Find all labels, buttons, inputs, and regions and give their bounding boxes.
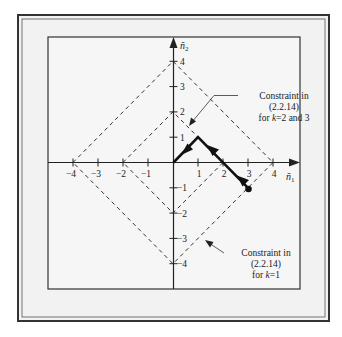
x-axis-subscript: 1: [291, 176, 295, 184]
y-axis-subscript: 2: [185, 45, 189, 53]
x-tick-label: −1: [141, 169, 151, 179]
y-tick-label: 2: [180, 107, 185, 117]
x-tick-label: 4: [272, 169, 277, 179]
y-tick-label: −3: [177, 234, 187, 244]
x-tick-label: 1: [197, 169, 202, 179]
x-tick-label: 3: [247, 169, 252, 179]
y-tick-label: 3: [180, 82, 185, 92]
x-tick-label: −2: [116, 169, 126, 179]
y-tick-label: 1: [180, 133, 185, 143]
x-tick-label: −3: [91, 169, 101, 179]
y-tick-label: 4: [180, 57, 185, 67]
x-tick-label: −4: [66, 169, 76, 179]
start-point-dot-icon: [245, 186, 252, 193]
annotation-k2-3-line2: (2.2.14): [269, 102, 299, 113]
annotation-k1-line2: (2.2.14): [251, 259, 281, 270]
x-tick-label: 2: [222, 169, 227, 179]
annotation-k1-line1: Constraint in: [241, 248, 291, 258]
y-tick-label: −2: [177, 209, 187, 219]
annotation-k2-3-line3: for k=2 and 3: [259, 113, 310, 123]
y-tick-label: −1: [177, 183, 187, 193]
constraint-diagram: −4 −3 −2 −1 1 2 3 4 4 3 2 1 −1 −2 −3 −4 …: [0, 0, 342, 337]
annotation-k1-line3: for k=1: [252, 270, 280, 280]
annotation-k2-3-line1: Constraint in: [259, 91, 309, 101]
y-tick-label: −4: [177, 259, 187, 269]
